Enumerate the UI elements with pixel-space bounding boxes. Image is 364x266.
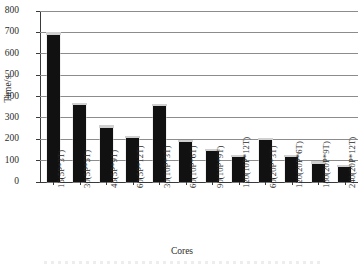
x-tick-mark: [159, 182, 160, 185]
x-tick-label: 180(20P*9T): [322, 141, 331, 188]
y-tick-mark: [36, 139, 40, 140]
y-tick-mark: [36, 75, 40, 76]
y-tick-mark: [36, 117, 40, 118]
y-axis-title: Time/s: [3, 59, 13, 119]
x-tick-label: 120(20P*6T): [295, 141, 304, 188]
x-tick-label: 30(10P*3T): [163, 145, 172, 188]
x-tick-label: 120(10P*12T): [242, 137, 251, 188]
x-tick-label: 15(5P*3T): [57, 150, 66, 188]
x-tick-mark: [292, 182, 293, 185]
x-tick-label: 90(10P*9T): [216, 145, 225, 188]
x-tick-mark: [345, 182, 346, 185]
gridline: [40, 53, 358, 54]
y-tick-label: 0: [0, 177, 19, 187]
y-tick-label: 700: [0, 27, 19, 37]
x-tick-mark: [265, 182, 266, 185]
y-tick-label: 800: [0, 6, 19, 16]
x-tick-label: 60(5P*12T): [136, 145, 145, 188]
y-tick-mark: [36, 53, 40, 54]
y-tick-label: 100: [0, 156, 19, 166]
gridline: [40, 32, 358, 33]
x-tick-mark: [80, 182, 81, 185]
x-tick-mark: [106, 182, 107, 185]
gridline: [40, 117, 358, 118]
bar-chart-figure: Time/s Cores 010020030040050060070080015…: [0, 0, 364, 266]
x-tick-mark: [53, 182, 54, 185]
x-tick-mark: [239, 182, 240, 185]
y-tick-mark: [36, 32, 40, 33]
x-tick-label: 60(10P*6T): [189, 145, 198, 188]
y-tick-label: 400: [0, 92, 19, 102]
gridline: [40, 75, 358, 76]
y-tick-label: 600: [0, 49, 19, 59]
x-axis-title: Cores: [0, 246, 364, 256]
x-tick-label: 60(20P*3T): [269, 145, 278, 188]
page-bleed-artifact: [44, 261, 320, 264]
gridline: [40, 96, 358, 97]
y-tick-label: 200: [0, 134, 19, 144]
x-tick-label: 30(5P*5T): [83, 150, 92, 188]
gridline: [40, 139, 358, 140]
x-tick-mark: [133, 182, 134, 185]
x-tick-mark: [212, 182, 213, 185]
gridline: [40, 11, 358, 12]
y-tick-mark: [36, 182, 40, 183]
y-tick-mark: [36, 96, 40, 97]
x-tick-label: 45(5P*9T): [110, 150, 119, 188]
y-tick-mark: [36, 160, 40, 161]
y-tick-mark: [36, 11, 40, 12]
y-tick-label: 500: [0, 70, 19, 80]
x-tick-mark: [186, 182, 187, 185]
y-tick-label: 300: [0, 113, 19, 123]
x-tick-mark: [318, 182, 319, 185]
x-tick-label: 240(20P*12T): [348, 137, 357, 188]
